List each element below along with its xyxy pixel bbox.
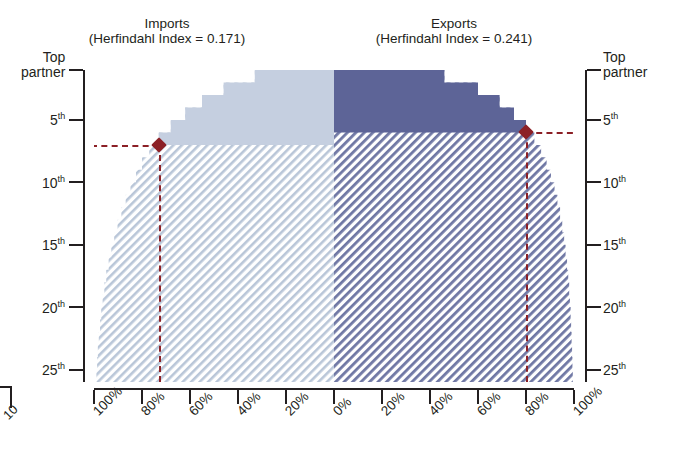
y-tick-right-5 (587, 119, 601, 121)
imports-threshold-horizontal-guide (94, 145, 159, 147)
y-tick-label-right-20: 20th (603, 300, 626, 315)
y-top-partner-line1: Top (43, 49, 66, 65)
y-tick-label-left-10: 10th (42, 175, 65, 190)
y-tick-right-25 (587, 369, 601, 371)
x-tick-label-10: 100% (570, 384, 605, 419)
exports-solid-area (334, 70, 526, 132)
y-tick-right-10 (587, 181, 601, 183)
imports-top-partners-block (159, 70, 334, 145)
y-tick-left-25 (69, 369, 83, 371)
exports-threshold-horizontal-guide (526, 132, 574, 134)
exports-top-partners-block (334, 70, 526, 132)
plot-area (94, 70, 574, 382)
y-top-partner-line1: Top (603, 49, 626, 65)
exports-panel-title: Exports (Herfindahl Index = 0.241) (274, 16, 634, 46)
y-top-partner-line2: partner (603, 64, 647, 80)
y-tick-label-left-1: Toppartner (21, 50, 65, 80)
exports-threshold-vertical-guide (526, 132, 528, 382)
exports-title-text: Exports (274, 16, 634, 31)
imports-solid-area (159, 70, 334, 145)
y-tick-right-20 (587, 306, 601, 308)
y-tick-right-1 (587, 69, 601, 71)
cropped-neighbor-artifact: 10 (0, 382, 60, 449)
chart-figure: Imports (Herfindahl Index = 0.171) Expor… (0, 0, 673, 449)
y-tick-right-15 (587, 244, 601, 246)
imports-threshold-vertical-guide (159, 145, 161, 382)
y-tick-left-5 (69, 119, 83, 121)
y-axis-line-right (585, 70, 587, 382)
y-tick-label-left-20: 20th (42, 300, 65, 315)
y-tick-left-20 (69, 306, 83, 308)
y-tick-label-right-15: 15th (603, 237, 626, 252)
y-tick-label-right-10: 10th (603, 175, 626, 190)
y-tick-label-right-1: Toppartner (603, 50, 647, 80)
y-tick-label-right-25: 25th (603, 362, 626, 377)
artifact-axis-tick (0, 386, 12, 388)
artifact-label: 10 (0, 402, 21, 423)
y-tick-left-1 (69, 69, 83, 71)
y-tick-label-left-15: 15th (42, 237, 65, 252)
y-top-partner-line2: partner (21, 64, 65, 80)
y-tick-label-right-5: 5th (603, 112, 618, 127)
y-tick-label-left-25: 25th (42, 362, 65, 377)
plot-svg (94, 70, 574, 382)
exports-herfindahl-text: (Herfindahl Index = 0.241) (274, 31, 634, 46)
y-axis-line-left (83, 70, 85, 382)
y-tick-left-10 (69, 181, 83, 183)
y-tick-label-left-5: 5th (50, 112, 65, 127)
y-tick-left-15 (69, 244, 83, 246)
